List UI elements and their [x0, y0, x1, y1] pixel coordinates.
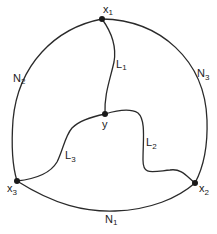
- label-n2: N2: [13, 72, 26, 86]
- edge-n1: [17, 181, 195, 211]
- label-n1: N1: [105, 213, 118, 227]
- label-l2: L2: [146, 136, 157, 151]
- label-y: y: [102, 118, 108, 130]
- label-x2: x2: [199, 182, 210, 197]
- label-l3: L3: [65, 149, 76, 164]
- label-x3: x3: [7, 182, 18, 197]
- edge-l1: [102, 19, 115, 114]
- node-x1: [99, 16, 105, 22]
- node-x3: [14, 178, 20, 184]
- node-y: [102, 111, 108, 117]
- label-x1: x1: [103, 3, 114, 17]
- edge-n2: [12, 19, 102, 181]
- node-x2: [192, 180, 198, 186]
- edge-l3: [17, 114, 105, 181]
- edge-n3: [102, 19, 207, 183]
- label-l1: L1: [116, 58, 127, 72]
- network-diagram: x1 x2 x3 y N1 N2 N3 L1 L2 L3: [0, 0, 217, 234]
